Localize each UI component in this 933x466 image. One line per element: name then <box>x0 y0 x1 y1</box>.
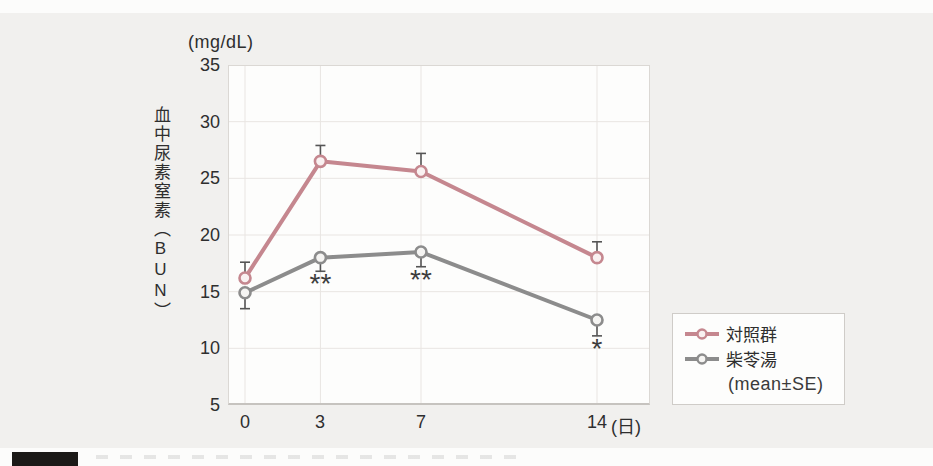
caption-text-fragment <box>96 455 516 459</box>
caption-label-box <box>12 452 78 466</box>
legend-label-control: 対照群 <box>726 321 777 346</box>
data-marker <box>592 315 603 326</box>
legend-box: 対照群 柴苓湯 (mean±SE) <box>672 313 845 405</box>
data-marker <box>592 252 603 263</box>
legend-label-saireito: 柴苓湯 <box>726 346 777 371</box>
data-marker <box>315 252 326 263</box>
legend-note-mean-se: (mean±SE) <box>728 374 844 395</box>
significance-marker: ** <box>310 268 332 299</box>
data-marker <box>416 247 427 258</box>
legend-swatch-saireito-line-icon <box>682 352 722 366</box>
data-marker <box>416 166 427 177</box>
legend-entry-saireito: 柴苓湯 <box>682 346 844 371</box>
legend-swatch-control-line-icon <box>682 327 722 341</box>
significance-marker: ** <box>410 264 432 295</box>
significance-marker: * <box>592 333 603 364</box>
data-marker <box>240 287 251 298</box>
legend-entry-control: 対照群 <box>682 321 844 346</box>
data-marker <box>240 273 251 284</box>
data-marker <box>315 156 326 167</box>
